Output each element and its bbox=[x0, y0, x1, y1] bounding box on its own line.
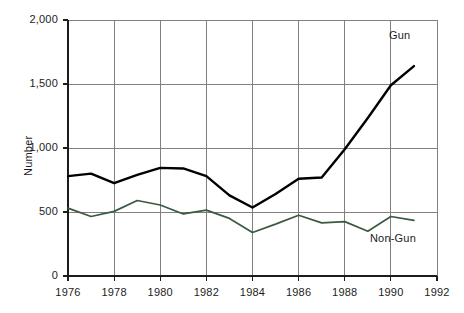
series-label-gun: Gun bbox=[389, 29, 410, 41]
x-tick-label: 1986 bbox=[273, 286, 325, 298]
x-tick-label: 1978 bbox=[88, 286, 140, 298]
x-tick-label: 1992 bbox=[411, 286, 463, 298]
y-tick-label: 500 bbox=[0, 205, 58, 217]
series-line-non-gun bbox=[68, 200, 414, 232]
series-label-non-gun: Non-Gun bbox=[370, 232, 416, 244]
x-tick-label: 1980 bbox=[134, 286, 186, 298]
y-axis-title: Number bbox=[22, 136, 34, 176]
x-tick-label: 1988 bbox=[319, 286, 371, 298]
series-line-gun bbox=[68, 66, 414, 207]
y-tick-label: 1,500 bbox=[0, 77, 58, 89]
x-tick-label: 1990 bbox=[365, 286, 417, 298]
x-tick-label: 1976 bbox=[42, 286, 94, 298]
x-tick-label: 1984 bbox=[227, 286, 279, 298]
y-tick-label: 0 bbox=[0, 269, 58, 281]
chart-figure: 05001,0001,5002,000 19761978198019821984… bbox=[0, 0, 464, 313]
x-tick-label: 1982 bbox=[180, 286, 232, 298]
series-lines bbox=[68, 66, 414, 232]
chart-plot-area bbox=[0, 0, 464, 313]
y-tick-label: 2,000 bbox=[0, 13, 58, 25]
